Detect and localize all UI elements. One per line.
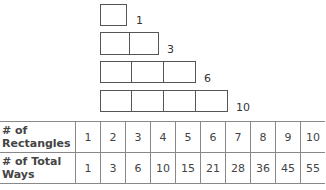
ways-label: 10 — [236, 101, 250, 114]
rectangle — [129, 32, 159, 55]
rectangle — [100, 61, 132, 83]
rectangle — [163, 61, 196, 83]
table-cell: 5 — [176, 122, 201, 153]
table-row: # of Rectangles 1 2 3 4 5 6 7 8 9 10 — [0, 122, 325, 153]
table-cell: 55 — [301, 153, 326, 184]
table-cell: 3 — [126, 122, 151, 153]
table-cell: 10 — [151, 153, 176, 184]
table-cell: 6 — [126, 153, 151, 184]
rectangle — [100, 4, 127, 26]
rectangle — [100, 32, 130, 55]
table-cell: 2 — [101, 122, 126, 153]
rectangle — [100, 90, 132, 112]
rectangle — [131, 90, 164, 112]
table-cell: 28 — [226, 153, 251, 184]
table-cell: 1 — [76, 122, 101, 153]
row-header: # of Total Ways — [0, 153, 76, 184]
table-cell: 45 — [276, 153, 301, 184]
table-cell: 36 — [251, 153, 276, 184]
rectangle — [195, 90, 228, 112]
ways-table: # of Rectangles 1 2 3 4 5 6 7 8 9 10 # o… — [0, 121, 325, 184]
ways-label: 6 — [204, 72, 211, 85]
table-row: # of Total Ways 1 3 6 10 15 21 28 36 45 … — [0, 153, 325, 184]
table-cell: 21 — [201, 153, 226, 184]
table-cell: 1 — [76, 153, 101, 184]
table-cell: 6 — [201, 122, 226, 153]
table-cell: 10 — [301, 122, 326, 153]
ways-label: 1 — [136, 14, 143, 27]
table-cell: 15 — [176, 153, 201, 184]
rectangle — [163, 90, 196, 112]
table-cell: 8 — [251, 122, 276, 153]
row-header: # of Rectangles — [0, 122, 76, 153]
rectangle — [131, 61, 164, 83]
table-cell: 9 — [276, 122, 301, 153]
table-cell: 4 — [151, 122, 176, 153]
table-cell: 7 — [226, 122, 251, 153]
table-cell: 3 — [101, 153, 126, 184]
ways-label: 3 — [167, 43, 174, 56]
